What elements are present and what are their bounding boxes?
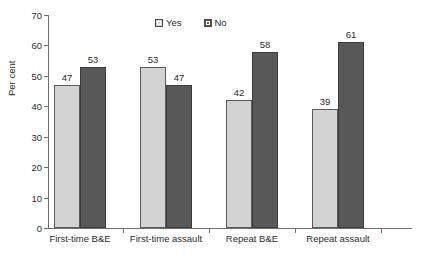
y-axis-title: Per cent	[6, 82, 17, 96]
bar-value-label: 47	[174, 72, 185, 83]
bar-yes-3: 39	[312, 109, 338, 228]
y-tick-mark	[44, 106, 48, 107]
y-tick-label: 0	[37, 223, 42, 234]
bar-yes-0: 47	[54, 85, 80, 228]
bar-no-3: 61	[338, 42, 364, 228]
y-tick-label: 50	[31, 70, 42, 81]
bar-chart: Yes No Per cent 010203040506070 47535347…	[0, 0, 423, 265]
bar-no-2: 58	[252, 52, 278, 228]
bar-value-label: 53	[88, 54, 99, 65]
x-category-label: Repeat assault	[306, 233, 369, 244]
y-tick-mark	[44, 198, 48, 199]
x-tick-mark	[123, 229, 124, 233]
y-tick-mark	[44, 137, 48, 138]
x-category-label: First-time assault	[130, 233, 202, 244]
y-tick-label: 30	[31, 131, 42, 142]
cropped-caption	[10, 261, 413, 265]
bar-value-label: 53	[148, 54, 159, 65]
bar-value-label: 58	[260, 39, 271, 50]
y-axis-line	[48, 15, 49, 229]
y-tick-label: 20	[31, 162, 42, 173]
y-tick-label: 10	[31, 192, 42, 203]
y-tick-mark	[44, 76, 48, 77]
y-tick-label: 40	[31, 101, 42, 112]
y-tick-label: 70	[31, 10, 42, 21]
bar-yes-1: 53	[140, 67, 166, 228]
x-category-label: First-time B&E	[49, 233, 110, 244]
x-category-label: Repeat B&E	[226, 233, 278, 244]
y-tick-mark	[44, 15, 48, 16]
x-tick-mark	[295, 229, 296, 233]
y-tick-mark	[44, 167, 48, 168]
bar-no-1: 47	[166, 85, 192, 228]
bar-value-label: 61	[346, 29, 357, 40]
bar-value-label: 39	[320, 96, 331, 107]
y-tick-mark	[44, 45, 48, 46]
x-tick-mark	[209, 229, 210, 233]
bar-no-0: 53	[80, 67, 106, 228]
y-tick-label: 60	[31, 40, 42, 51]
bar-value-label: 42	[234, 87, 245, 98]
x-tick-mark	[381, 229, 382, 233]
bar-yes-2: 42	[226, 100, 252, 228]
plot-area: 010203040506070 4753534742583961	[48, 15, 412, 228]
x-axis-line	[48, 228, 412, 229]
bar-value-label: 47	[62, 72, 73, 83]
y-tick-mark	[44, 228, 48, 229]
